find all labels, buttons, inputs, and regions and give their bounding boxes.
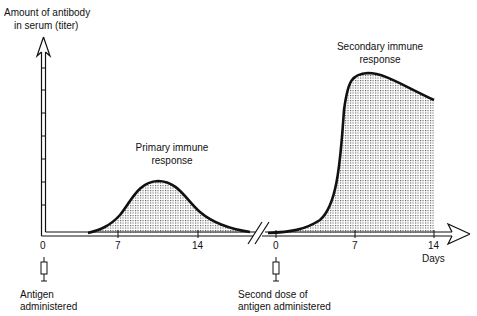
primary-label-line1: Primary immune — [106, 142, 238, 154]
tick-label: 0 — [273, 240, 279, 252]
x-axis-label: Days — [422, 253, 445, 265]
secondary-label-line1: Secondary immune — [310, 41, 450, 53]
syringe-icon — [41, 257, 47, 281]
event1-label-line1: Antigen — [20, 289, 54, 301]
event2-label-line1: Second dose of — [238, 289, 308, 301]
secondary-label-line2: response — [310, 54, 450, 66]
y-axis-label-line1: Amount of antibody — [4, 7, 90, 19]
y-axis — [37, 37, 50, 236]
y-axis-label-line2: in serum (titer) — [14, 20, 78, 32]
event1-label-line2: administered — [20, 301, 77, 313]
event2-label-line2: antigen administered — [238, 301, 331, 313]
syringe-icon — [273, 257, 279, 281]
tick-label: 14 — [192, 240, 203, 252]
secondary-response-curve — [268, 73, 434, 233]
tick-label: 14 — [428, 240, 439, 252]
axis-break — [248, 222, 269, 244]
tick-label: 7 — [352, 240, 358, 252]
primary-label-line2: response — [106, 155, 238, 167]
tick-label: 7 — [115, 240, 121, 252]
tick-label: 0 — [40, 240, 46, 252]
primary-response-curve — [88, 181, 250, 233]
